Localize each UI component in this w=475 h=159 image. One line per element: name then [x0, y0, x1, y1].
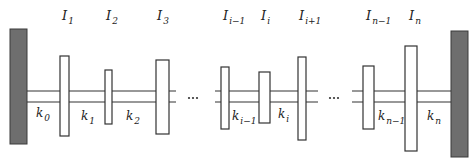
stiffness-label: k0 [36, 106, 50, 123]
stiffness-label: kn [427, 109, 441, 126]
inertia-label: Ii+1 [298, 8, 321, 26]
torsional-shaft-diagram: I1I2I3Ii−1IiIi+1In−1In k0k1k2ki−1kikn−1k… [0, 0, 475, 159]
stiffness-labels: k0k1k2ki−1kikn−1kn [36, 106, 441, 126]
disc-i+1 [298, 57, 306, 140]
ellipsis-dot [192, 97, 194, 99]
left-wall [10, 29, 27, 144]
inertia-label: In−1 [365, 8, 391, 26]
disc-i−1 [221, 67, 229, 129]
disc-1 [60, 56, 69, 136]
ellipsis-dot [333, 97, 335, 99]
right-wall [451, 31, 468, 157]
stiffness-label: kn−1 [378, 109, 405, 126]
inertia-label: In [408, 8, 421, 26]
stiffness-label: k1 [81, 109, 95, 126]
disc-i [259, 72, 270, 123]
ellipsis-dot [196, 97, 198, 99]
inertia-label: I1 [61, 8, 74, 26]
fixed-walls [10, 29, 468, 157]
stiffness-label: ki [278, 107, 289, 124]
inertia-label: Ii [260, 8, 270, 26]
stiffness-label: ki−1 [232, 109, 256, 126]
inertia-labels: I1I2I3Ii−1IiIi+1In−1In [61, 8, 421, 26]
rotor-discs [60, 46, 417, 151]
inertia-label: I3 [156, 8, 169, 26]
shaft [27, 91, 451, 102]
disc-2 [105, 70, 112, 124]
disc-n [405, 46, 417, 151]
ellipsis-dot [337, 97, 339, 99]
disc-3 [156, 60, 169, 134]
inertia-label: Ii−1 [222, 8, 245, 26]
ellipsis-dot [329, 97, 331, 99]
stiffness-label: k2 [126, 109, 140, 126]
inertia-label: I2 [105, 8, 118, 26]
disc-n−1 [363, 66, 374, 129]
ellipsis-dot [188, 97, 190, 99]
